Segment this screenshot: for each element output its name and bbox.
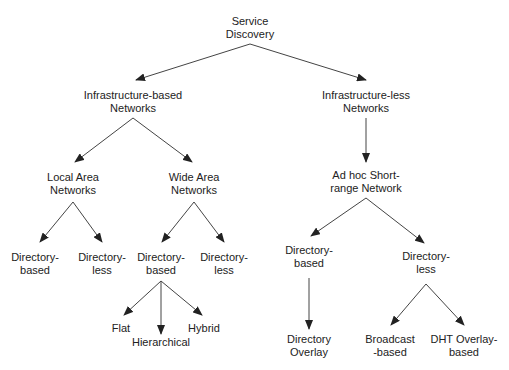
node-label-line1: Ad hoc Short- [330,169,402,182]
edge-root-infra-based [136,44,250,80]
edge-dir-less-broadcast [391,284,426,325]
node-infrastructure-less-networks: Infrastructure-less Networks [322,89,410,115]
edge-dir-less-dht [426,284,464,325]
node-broadcast-based: Broadcast -based [365,333,415,359]
node-wide-area-networks: Wide Area Networks [169,171,220,197]
edge-adhoc-dir-based [311,198,366,236]
node-label-line1: Service [226,15,274,28]
node-label-line1: Directory- [11,251,59,264]
node-label-line1: Directory- [402,250,450,263]
node-label-line1: DHT Overlay- [430,333,497,346]
node-label-line2: based [137,264,185,277]
edge-lan-dir-based [40,202,73,242]
node-label-line1: Broadcast [365,333,415,346]
node-label-line2: based [285,257,333,270]
node-lan-directory-less: Directory- less [78,251,126,277]
node-label-line2: Overlay [287,346,331,359]
node-service-discovery: Service Discovery [226,15,274,41]
node-label-line1: Wide Area [169,171,220,184]
node-label-line2: based [11,264,59,277]
node-label-line2: Networks [84,102,182,115]
node-hierarchical: Hierarchical [132,336,190,349]
node-label-line2: Networks [169,184,220,197]
node-label-line2: based [430,346,497,359]
node-label-line2: less [78,264,126,277]
node-local-area-networks: Local Area Networks [47,171,99,197]
node-label-line1: Hierarchical [132,336,190,349]
node-label-line1: Flat [112,322,130,335]
edge-wan-dir-based [162,202,194,242]
node-label-line2: -based [365,346,415,359]
node-label-line2: less [200,264,248,277]
edge-lan-dir-less [73,202,102,242]
node-directory-overlay: Directory Overlay [287,333,331,359]
edge-infra-based-wan [133,118,192,162]
edge-infra-based-lan [75,118,133,162]
service-discovery-diagram: Service Discovery Infrastructure-based N… [0,0,509,370]
node-infrastructure-based-networks: Infrastructure-based Networks [84,89,182,115]
node-label-line1: Directory- [200,251,248,264]
node-adhoc-directory-based: Directory- based [285,244,333,270]
node-label-line1: Directory- [137,251,185,264]
edge-dir-based-hybrid [161,281,202,315]
node-label-line2: range Network [330,182,402,195]
node-label-line2: Networks [322,102,410,115]
node-label-line2: Discovery [226,28,274,41]
node-label-line1: Hybrid [188,322,220,335]
node-label-line1: Directory- [285,244,333,257]
node-flat: Flat [112,322,130,335]
node-adhoc-directory-less: Directory- less [402,250,450,276]
node-label-line2: less [402,263,450,276]
edge-root-infra-less [250,44,366,80]
node-ad-hoc-short-range-network: Ad hoc Short- range Network [330,169,402,195]
node-label-line1: Directory [287,333,331,346]
node-wan-directory-based: Directory- based [137,251,185,277]
edge-adhoc-dir-less [366,198,424,243]
node-label-line2: Networks [47,184,99,197]
node-label-line1: Infrastructure-based [84,89,182,102]
edge-dir-based-flat [124,281,161,315]
node-label-line1: Directory- [78,251,126,264]
node-lan-directory-based: Directory- based [11,251,59,277]
node-dht-overlay-based: DHT Overlay- based [430,333,497,359]
node-label-line1: Local Area [47,171,99,184]
node-label-line1: Infrastructure-less [322,89,410,102]
node-hybrid: Hybrid [188,322,220,335]
edge-wan-dir-less [194,202,224,242]
node-wan-directory-less: Directory- less [200,251,248,277]
